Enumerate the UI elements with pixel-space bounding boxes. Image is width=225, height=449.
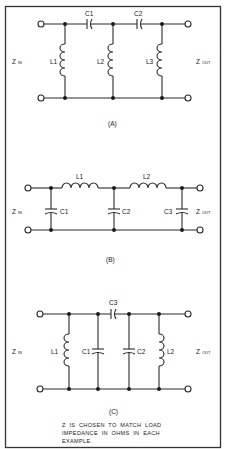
- caption-c: (C): [109, 408, 118, 416]
- label-c-l1: L1: [51, 348, 59, 355]
- label-b-c2: C2: [122, 208, 131, 215]
- label-c-c2: C2: [137, 348, 146, 355]
- note-line-3: EXAMPLE.: [62, 438, 93, 444]
- filter-circuits-figure: C1 C2 L1 L2 L3 ZIN ZOUT (A) L1 L2 C1 C2 …: [0, 0, 225, 449]
- terminal-in-bottom: [38, 95, 44, 101]
- label-b-l1: L1: [76, 173, 84, 180]
- circuit-b: [25, 183, 203, 233]
- label-c-l2: L2: [167, 348, 175, 355]
- label-a-l3: L3: [146, 58, 154, 65]
- terminal-in-bottom: [25, 227, 31, 233]
- label-c-c3: C3: [109, 299, 118, 306]
- caption-a: (A): [108, 120, 117, 128]
- capacitor-c3-symbol: [176, 188, 188, 230]
- terminal-out-bottom: [185, 386, 191, 392]
- label-b-l2: L2: [143, 173, 151, 180]
- circuit-a: [38, 19, 191, 101]
- capacitor-c2-symbol: [108, 188, 120, 230]
- figure-frame: [6, 7, 221, 448]
- label-a-c1: C1: [85, 10, 94, 17]
- label-c-c1: C1: [82, 348, 91, 355]
- inductor-l1-symbol: [62, 183, 98, 188]
- z-in-label-c: ZIN: [12, 348, 22, 355]
- z-out-label-c: ZOUT: [196, 348, 211, 355]
- inductor-l2-symbol: [159, 314, 164, 389]
- inductor-l2-symbol: [130, 183, 166, 188]
- inductor-l3-symbol: [157, 24, 162, 98]
- inductor-l1-symbol: [64, 314, 69, 389]
- terminal-out-top: [185, 311, 191, 317]
- terminal-in-top: [38, 21, 44, 27]
- z-out-label-b: ZOUT: [196, 208, 211, 215]
- terminal-in-top: [25, 185, 31, 191]
- terminal-in-top: [37, 311, 43, 317]
- note-line-1: Z IS CHOSEN TO MATCH LOAD: [62, 422, 161, 428]
- label-a-l1: L1: [50, 58, 58, 65]
- capacitor-c1-symbol: [92, 314, 104, 389]
- z-in-label-b: ZIN: [12, 208, 22, 215]
- terminal-out-bottom: [197, 227, 203, 233]
- inductor-l2-symbol: [108, 24, 113, 98]
- z-out-label-a: ZOUT: [196, 58, 211, 65]
- terminal-out-top: [185, 21, 191, 27]
- note-line-2: IMPEDANCE IN OHMS IN EACH: [62, 430, 160, 436]
- terminal-out-bottom: [185, 95, 191, 101]
- capacitor-c2-symbol: [123, 314, 135, 389]
- label-a-l2: L2: [97, 58, 105, 65]
- label-b-c1: C1: [60, 208, 69, 215]
- z-in-label-a: ZIN: [12, 58, 22, 65]
- capacitor-c1-symbol: [45, 188, 57, 230]
- terminal-in-bottom: [37, 386, 43, 392]
- label-a-c2: C2: [134, 10, 143, 17]
- caption-b: (B): [106, 256, 115, 264]
- inductor-l1-symbol: [60, 24, 65, 98]
- terminal-out-top: [197, 185, 203, 191]
- label-b-c3: C3: [164, 208, 173, 215]
